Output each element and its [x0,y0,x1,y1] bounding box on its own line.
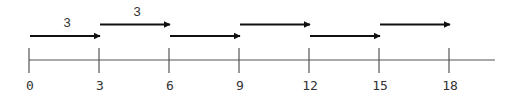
jump-label: 3 [133,4,140,19]
tick-label: 18 [442,78,458,93]
tick-label: 15 [372,78,388,93]
number-line-svg: 0369121518 33 [0,0,519,100]
number-line-diagram: 0369121518 33 [0,0,519,100]
tick-label: 12 [302,78,318,93]
tick-label: 3 [96,78,104,93]
jump-label: 3 [63,15,70,30]
tick-label: 6 [166,78,174,93]
tick-label: 9 [236,78,244,93]
jump-arrow-group: 33 [30,4,450,37]
tick-label: 0 [26,78,34,93]
tick-group: 0369121518 [26,48,458,93]
